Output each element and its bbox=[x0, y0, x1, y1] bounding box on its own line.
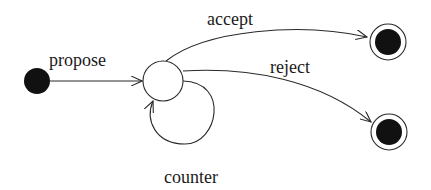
rejected-final-state-node bbox=[371, 114, 407, 150]
propose-label: propose bbox=[49, 51, 106, 69]
reject-label: reject bbox=[270, 58, 310, 76]
accept-transition-arrow bbox=[166, 30, 367, 61]
counter-label: counter bbox=[164, 168, 218, 186]
negotiating-state-node bbox=[143, 61, 183, 101]
initial-state-node bbox=[24, 68, 50, 94]
accept-label: accept bbox=[207, 10, 253, 28]
accepted-final-state-node bbox=[370, 24, 406, 60]
